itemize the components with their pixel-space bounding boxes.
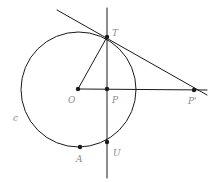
radius-OT xyxy=(78,37,107,89)
geometry-diagram: TOPP'AUc xyxy=(0,0,216,182)
point-label-U: U xyxy=(113,149,121,158)
lines-group xyxy=(57,8,207,178)
point-dot-Pp xyxy=(192,88,196,92)
point-dot-P xyxy=(105,87,109,91)
point-label-O: O xyxy=(68,96,75,105)
point-dot-T xyxy=(105,35,109,39)
point-label-T: T xyxy=(112,29,118,38)
horizontal-axis-line xyxy=(78,89,207,90)
point-dot-A xyxy=(78,145,82,149)
point-label-P: P xyxy=(112,96,118,105)
point-dot-U xyxy=(105,140,109,144)
circle-label-c: c xyxy=(13,114,18,123)
geometry-canvas xyxy=(0,0,216,182)
point-dot-O xyxy=(76,87,80,91)
point-label-A: A xyxy=(76,155,83,164)
point-label-Pp: P' xyxy=(188,97,197,106)
tangent-line xyxy=(57,10,207,95)
